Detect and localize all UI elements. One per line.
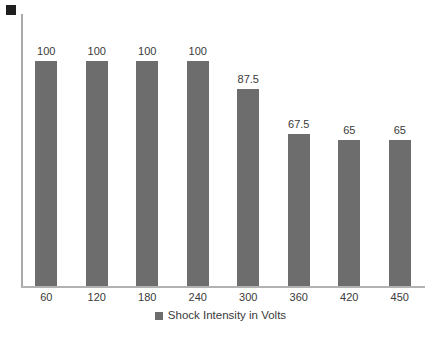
x-tick-label: 120 (72, 291, 122, 303)
x-axis-line (21, 286, 425, 288)
bar (389, 140, 411, 286)
corner-mark (6, 5, 16, 15)
plot-area: 10010010010087.567.56565 (21, 14, 425, 286)
x-tick-label: 60 (21, 291, 71, 303)
bar (86, 61, 108, 286)
bar-value-label: 87.5 (226, 73, 270, 85)
bar (237, 89, 259, 286)
x-tick-label: 240 (173, 291, 223, 303)
x-tick-label: 420 (324, 291, 374, 303)
x-tick-label: 450 (375, 291, 425, 303)
bar-value-label: 65 (378, 124, 422, 136)
bar (136, 61, 158, 286)
bar (35, 61, 57, 286)
x-tick-label: 360 (274, 291, 324, 303)
legend-marker-icon (155, 312, 163, 320)
bar-chart: 10010010010087.567.56565 601201802403003… (0, 0, 441, 342)
x-tick-label: 300 (223, 291, 273, 303)
bar (288, 134, 310, 286)
bar-value-label: 65 (327, 124, 371, 136)
y-axis-line (21, 14, 23, 286)
bar-value-label: 67.5 (277, 118, 321, 130)
bar-value-label: 100 (24, 45, 68, 57)
legend-label: Shock Intensity in Volts (168, 309, 286, 321)
bar-value-label: 100 (125, 45, 169, 57)
bar (338, 140, 360, 286)
bar-value-label: 100 (75, 45, 119, 57)
bar (187, 61, 209, 286)
legend: Shock Intensity in Volts (0, 309, 441, 321)
bar-value-label: 100 (176, 45, 220, 57)
x-tick-label: 180 (122, 291, 172, 303)
